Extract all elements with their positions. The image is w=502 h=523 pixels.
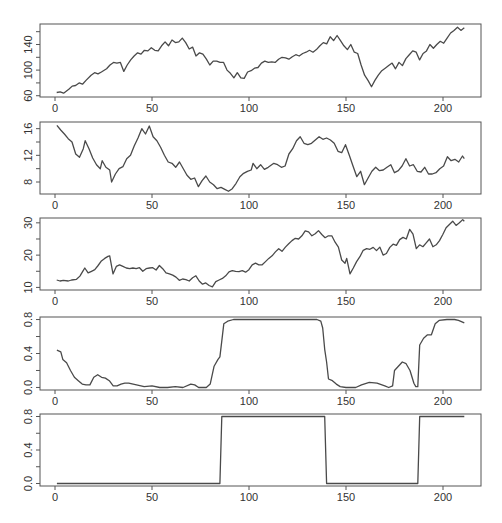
x-tick-label: 150 (337, 395, 355, 407)
y-tick-label: 0.8 (22, 312, 34, 327)
panel-3: 050100150200102030 (22, 217, 481, 307)
y-axis: 102030 (22, 217, 40, 294)
x-tick-label: 200 (434, 491, 452, 503)
x-axis: 050100150200 (52, 390, 452, 407)
stacked-time-series-figure: 0501001502006010014005010015020081216050… (0, 0, 502, 523)
y-tick-label: 30 (22, 217, 34, 229)
plot-frame (40, 122, 481, 194)
x-tick-label: 0 (52, 199, 58, 211)
y-tick-label: 140 (22, 35, 34, 53)
x-tick-label: 0 (52, 491, 58, 503)
series-line (57, 417, 464, 484)
y-tick-label: 8 (22, 179, 34, 185)
y-tick-label: 0.4 (22, 346, 34, 361)
panel-4: 0501001502000.00.40.8 (22, 312, 481, 407)
x-tick-label: 50 (146, 491, 158, 503)
x-tick-label: 200 (434, 295, 452, 307)
series-line (57, 27, 465, 93)
x-tick-label: 100 (240, 295, 258, 307)
y-axis: 0.00.40.8 (22, 409, 40, 491)
y-tick-label: 12 (22, 149, 34, 161)
x-tick-label: 0 (52, 295, 58, 307)
y-tick-label: 0.8 (22, 409, 34, 424)
series-line (57, 125, 464, 191)
figure-canvas: 0501001502006010014005010015020081216050… (0, 0, 502, 523)
y-tick-label: 16 (22, 123, 34, 135)
y-tick-label: 100 (22, 61, 34, 79)
x-tick-label: 100 (240, 395, 258, 407)
y-axis: 81216 (22, 123, 40, 186)
panel-2: 05010015020081216 (22, 122, 481, 211)
x-tick-label: 50 (146, 102, 158, 114)
x-axis: 050100150200 (52, 97, 452, 114)
x-tick-label: 150 (337, 199, 355, 211)
y-tick-label: 60 (22, 90, 34, 102)
x-tick-label: 200 (434, 102, 452, 114)
y-tick-label: 20 (22, 249, 34, 261)
x-tick-label: 150 (337, 295, 355, 307)
x-axis: 050100150200 (52, 194, 452, 211)
x-tick-label: 200 (434, 395, 452, 407)
x-tick-label: 200 (434, 199, 452, 211)
plot-frame (40, 218, 481, 290)
x-tick-label: 100 (240, 491, 258, 503)
panel-5: 0501001502000.00.40.8 (22, 409, 481, 503)
x-tick-label: 100 (240, 199, 258, 211)
x-axis: 050100150200 (52, 486, 452, 503)
x-tick-label: 150 (337, 491, 355, 503)
panel-1: 05010015020060100140 (22, 24, 481, 114)
x-tick-label: 0 (52, 395, 58, 407)
x-tick-label: 50 (146, 395, 158, 407)
y-tick-label: 0.0 (22, 380, 34, 395)
y-axis: 60100140 (22, 32, 40, 102)
y-axis: 0.00.40.8 (22, 312, 40, 395)
x-tick-label: 50 (146, 199, 158, 211)
x-tick-label: 150 (337, 102, 355, 114)
series-line (57, 320, 464, 388)
y-tick-label: 0.4 (22, 442, 34, 457)
x-tick-label: 100 (240, 102, 258, 114)
x-axis: 050100150200 (52, 290, 452, 307)
y-tick-label: 0.0 (22, 476, 34, 491)
series-line (57, 220, 465, 287)
y-tick-label: 10 (22, 281, 34, 293)
x-tick-label: 0 (52, 102, 58, 114)
x-tick-label: 50 (146, 295, 158, 307)
plot-frame (40, 24, 481, 97)
plot-frame (40, 414, 481, 486)
